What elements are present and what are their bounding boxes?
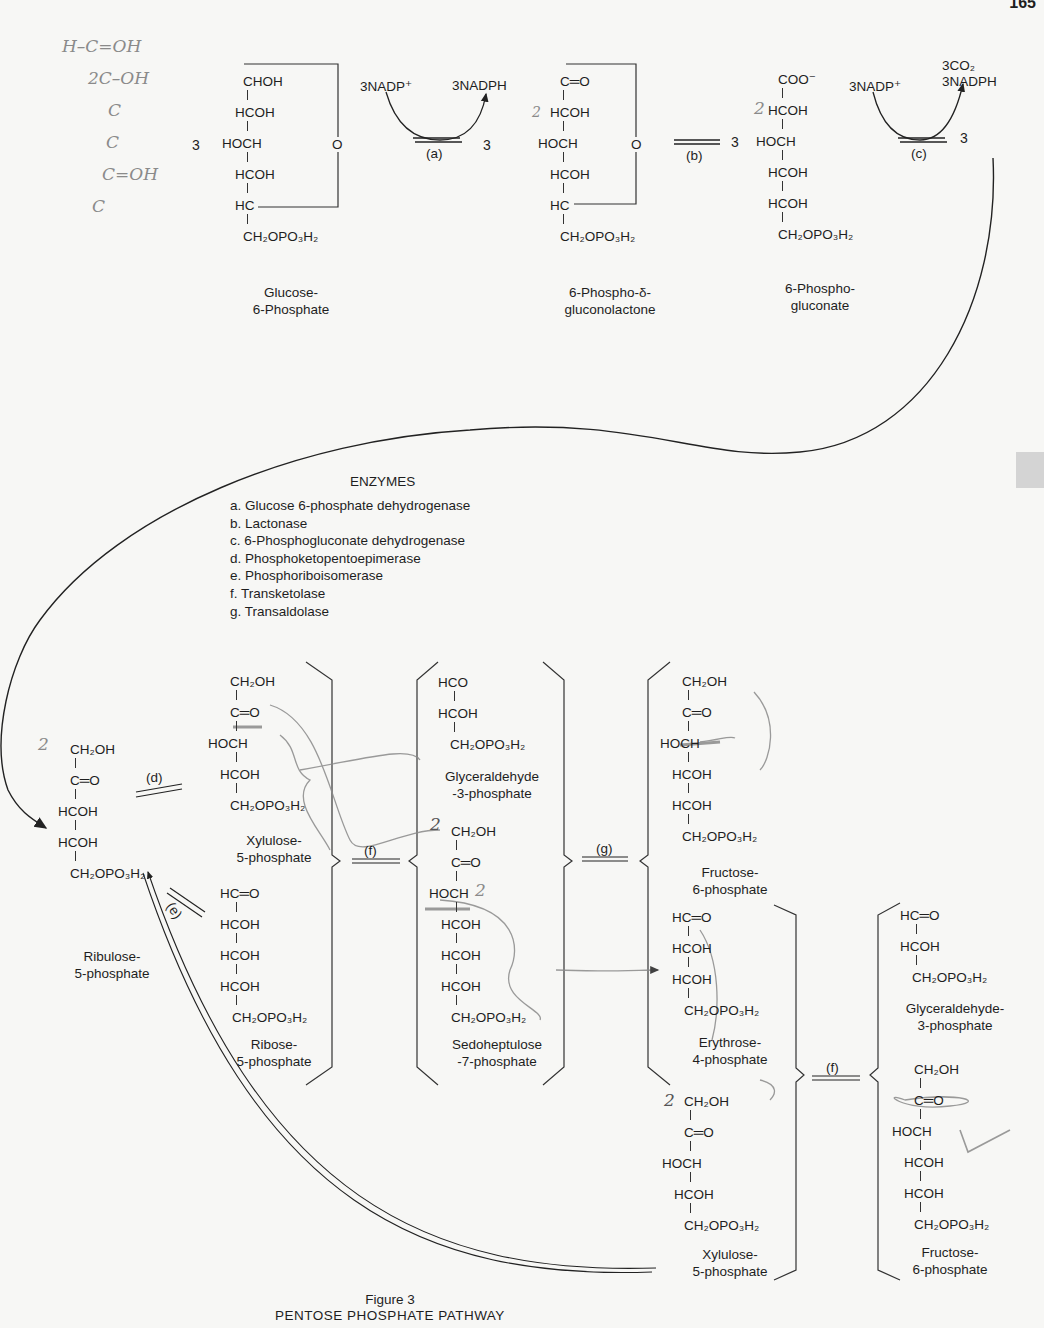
- atom: HCOH: [220, 917, 260, 932]
- cofactor-nadph-a: 3NADPH: [452, 78, 507, 93]
- atom: HC═O: [220, 886, 260, 901]
- coefficient-c: 3: [960, 130, 968, 146]
- atom: HC═O: [900, 908, 940, 923]
- atom: HCOH: [672, 767, 712, 782]
- enzyme-label-d: (d): [146, 770, 163, 785]
- bracket-group3-left: [640, 662, 670, 1085]
- reaction-f2-arrows: [812, 1076, 860, 1080]
- enzyme-label-b: (b): [686, 148, 703, 163]
- atom: HCOH: [438, 706, 478, 721]
- atom: CHOH: [243, 74, 283, 89]
- atom: CH₂OPO₃H₂: [243, 229, 318, 244]
- label-xylulose-5-phosphate-2: Xylulose- 5-phosphate: [680, 1246, 780, 1280]
- atom: HOCH: [662, 1156, 702, 1171]
- return-curve: [143, 872, 656, 1273]
- handwritten-margin-structure: H–C=OH 2C–OH C C C=OH C: [62, 30, 158, 222]
- atom: HCOH: [674, 1187, 714, 1202]
- ring-oxygen: O: [631, 137, 642, 152]
- atom: HOCH: [756, 134, 796, 149]
- cofactor-nadp-a: 3NADP⁺: [360, 78, 412, 94]
- reaction-d-arrows: [136, 784, 182, 797]
- enzyme-label-c: (c): [911, 146, 927, 161]
- atom: HCOH: [220, 979, 260, 994]
- enzyme-item: f. Transketolase: [230, 585, 470, 603]
- coefficient-b: 3: [731, 134, 739, 150]
- atom: HCOH: [441, 917, 481, 932]
- enzyme-item: e. Phosphoriboisomerase: [230, 567, 470, 585]
- atom: C═O: [914, 1093, 944, 1108]
- atom: HCOH: [220, 767, 260, 782]
- atom: CH₂OPO₃H₂: [232, 1010, 307, 1025]
- atom: HCOH: [900, 939, 940, 954]
- atom: HCOH: [58, 804, 98, 819]
- atom: HCOH: [235, 105, 275, 120]
- bracket-group5-left: [870, 903, 900, 1280]
- atom: CH₂OPO₃H₂: [684, 1003, 759, 1018]
- enzyme-item: b. Lactonase: [230, 515, 470, 533]
- atom: HCOH: [672, 972, 712, 987]
- label-phosphogluconate: 6-Phospho- gluconate: [770, 280, 870, 314]
- atom: HCOH: [672, 798, 712, 813]
- atom: CH₂OPO₃H₂: [778, 227, 853, 242]
- atom: CH₂OPO₃H₂: [451, 1010, 526, 1025]
- cofactor-nadph-c: 3NADPH: [942, 74, 997, 89]
- atom: CH₂OH: [684, 1094, 729, 1109]
- atom: CH₂OPO₃H₂: [70, 866, 145, 881]
- label-phosphogluconolactone: 6-Phospho-δ- gluconolactone: [540, 284, 680, 318]
- atom: HOCH: [429, 886, 469, 901]
- handwritten-carbon-mark: 2: [754, 98, 765, 118]
- enzyme-label-f2: (f): [826, 1060, 839, 1075]
- label-sedoheptulose-7-phosphate: Sedoheptulose -7-phosphate: [434, 1036, 560, 1070]
- atom: C═O: [682, 705, 712, 720]
- label-glyceraldehyde-3-phosphate-1: Glyceraldehyde -3-phosphate: [432, 768, 552, 802]
- atom: HCOH: [441, 948, 481, 963]
- atom: CH₂OH: [914, 1062, 959, 1077]
- cofactor-nadp-c: 3NADP⁺: [849, 78, 901, 94]
- coefficient-a: 3: [483, 137, 491, 153]
- handwritten-carbon-mark: 2: [475, 880, 486, 900]
- atom: HCOH: [768, 165, 808, 180]
- reaction-f1-arrows: [352, 859, 400, 863]
- enzyme-label-g: (g): [596, 841, 613, 856]
- bracket-group2-right: [543, 662, 572, 1085]
- reaction-a-arrows: [386, 92, 486, 142]
- atom: HOCH: [222, 136, 262, 151]
- label-fructose-6-phosphate-2: Fructose- 6-phosphate: [900, 1244, 1000, 1278]
- enzyme-label-a: (a): [426, 146, 443, 161]
- atom: HCO: [438, 675, 468, 690]
- bracket-group1-right: [306, 662, 340, 1085]
- figure-caption: Figure 3 PENTOSE PHOSPHATE PATHWAY: [240, 1292, 540, 1324]
- pencil-annotations: [233, 692, 1010, 1152]
- label-fructose-6-phosphate-1: Fructose- 6-phosphate: [680, 864, 780, 898]
- atom: CH₂OPO₃H₂: [914, 1217, 989, 1232]
- atom: HCOH: [550, 105, 590, 120]
- enzyme-item: c. 6-Phosphogluconate dehydrogenase: [230, 532, 470, 550]
- atom: CH₂OH: [682, 674, 727, 689]
- atom: HOCH: [538, 136, 578, 151]
- atom: HOCH: [208, 736, 248, 751]
- cofactor-co2-c: 3CO₂: [942, 58, 975, 73]
- atom: HCOH: [58, 835, 98, 850]
- atom: CH₂OH: [230, 674, 275, 689]
- atom: C═O: [684, 1125, 714, 1140]
- handwritten-carbon-mark: 2: [532, 104, 541, 120]
- atom: HCOH: [235, 167, 275, 182]
- atom: HCOH: [768, 196, 808, 211]
- atom: C═O: [451, 855, 481, 870]
- reaction-g-arrows: [582, 857, 628, 861]
- enzyme-label-f1: (f): [364, 843, 377, 858]
- label-ribulose-5-phosphate: Ribulose- 5-phosphate: [62, 948, 162, 982]
- atom: CH₂OPO₃H₂: [682, 829, 757, 844]
- atom: HC: [550, 198, 570, 213]
- atom: HCOH: [904, 1186, 944, 1201]
- connector-curve: [1, 158, 993, 828]
- atom: CH₂OPO₃H₂: [684, 1218, 759, 1233]
- atom: C═O: [560, 74, 590, 89]
- atom: HCOH: [220, 948, 260, 963]
- handwritten-carbon-mark: 2: [430, 814, 441, 834]
- atom: HC: [235, 198, 255, 213]
- atom: C═O: [230, 705, 260, 720]
- label-xylulose-5-phosphate-1: Xylulose- 5-phosphate: [224, 832, 324, 866]
- enzymes-title: ENZYMES: [350, 474, 415, 489]
- atom: CH₂OPO₃H₂: [560, 229, 635, 244]
